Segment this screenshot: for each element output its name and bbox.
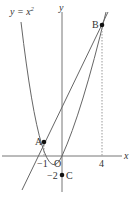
- tick-label-4: 4: [99, 158, 104, 169]
- tick-label-neg2: −2: [47, 170, 58, 181]
- point-c: [60, 173, 65, 178]
- y-axis-label: y: [58, 2, 64, 13]
- line-abc: [22, 12, 108, 190]
- parabola-curve: [21, 12, 106, 165]
- diagram-canvas: y = x2 y x O −1 4 −2 A B C: [0, 0, 139, 200]
- tick-label-neg1: −1: [37, 158, 48, 169]
- point-a-label: A: [35, 136, 43, 147]
- origin-label: O: [54, 158, 61, 169]
- point-b: [100, 23, 105, 28]
- curve-label: y = x2: [9, 6, 34, 17]
- point-b-label: B: [92, 19, 99, 30]
- x-axis-label: x: [123, 150, 129, 161]
- point-a: [42, 140, 47, 145]
- point-c-label: C: [66, 170, 73, 181]
